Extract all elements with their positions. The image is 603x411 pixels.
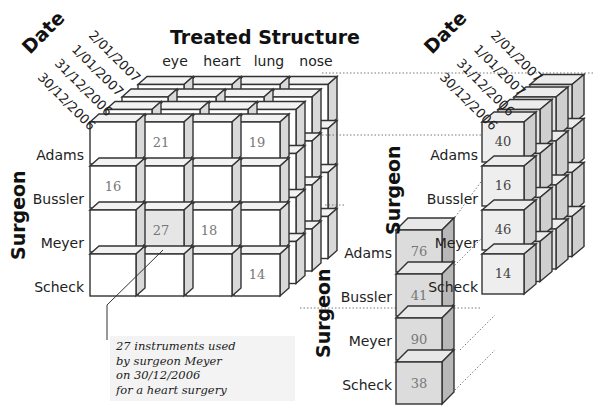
cube-cell: 16 xyxy=(90,158,145,208)
cell-value: 14 xyxy=(249,267,266,282)
surgeon-label: Adams xyxy=(430,147,478,163)
annotation-line-3: on 30/12/2006 xyxy=(116,368,236,383)
cell-value: 76 xyxy=(411,244,428,259)
annotation-line-4: for a heart surgery xyxy=(116,383,236,398)
cell-value: 90 xyxy=(411,332,428,347)
surgeon-label: Scheck xyxy=(428,279,479,295)
cell-value: 21 xyxy=(153,135,170,150)
right-surgeon-axis-label: Surgeon xyxy=(382,145,404,235)
cube-cell: 18 xyxy=(186,202,241,252)
olap-cube-diagram: .edge { stroke: #333; stroke-width: 1.4;… xyxy=(0,0,603,411)
right-cube-cell: 14 xyxy=(482,244,536,294)
cell-value: 14 xyxy=(495,266,512,281)
left-cube: 192116182714 xyxy=(90,77,337,297)
cube-cell: 19 xyxy=(234,114,289,164)
surgeon-label: Scheck xyxy=(342,377,393,393)
right-cube-cell: 16 xyxy=(482,156,536,206)
annotation-line-2: by surgeon Meyer xyxy=(116,354,236,369)
cell-value: 18 xyxy=(201,223,218,238)
cube-cell: 21 xyxy=(138,114,193,164)
rolled-surgeon-axis-label: Surgeon xyxy=(312,268,334,358)
surgeon-label: Meyer xyxy=(41,235,85,251)
structure-labels: eyeheartlungnose xyxy=(162,53,332,69)
left-date-axis-label: Date xyxy=(17,7,68,58)
right-date-axis-label: Date xyxy=(419,7,470,58)
cell-value: 16 xyxy=(495,178,512,193)
surgeon-label: Scheck xyxy=(34,279,85,295)
rolled-column-cell: 38 xyxy=(396,350,454,404)
cube-cell xyxy=(234,202,289,252)
cell-value: 27 xyxy=(153,223,170,238)
cube-cell xyxy=(234,158,289,208)
surgeon-label: Bussler xyxy=(341,289,393,305)
surgeon-label: Adams xyxy=(344,245,392,261)
cube-cell xyxy=(186,114,241,164)
cell-value: 16 xyxy=(105,179,122,194)
right-cube-cell: 46 xyxy=(482,200,536,250)
rolled-surgeon-labels: AdamsBusslerMeyerScheck xyxy=(341,245,393,393)
left-surgeon-labels: AdamsBusslerMeyerScheck xyxy=(33,147,85,295)
structure-label: heart xyxy=(203,53,241,69)
surgeon-label: Meyer xyxy=(349,333,393,349)
cell-value: 41 xyxy=(411,288,428,303)
cube-cell xyxy=(186,158,241,208)
cell-value: 40 xyxy=(495,134,512,149)
annotation-text: 27 instruments used by surgeon Meyer on … xyxy=(116,339,236,397)
surgeon-label: Bussler xyxy=(427,191,479,207)
cell-value: 38 xyxy=(411,376,428,391)
cell-value: 19 xyxy=(249,135,266,150)
cube-cell xyxy=(90,246,145,296)
annotation-line-1: 27 instruments used xyxy=(116,339,236,354)
surgeon-label: Adams xyxy=(36,147,84,163)
structure-label: nose xyxy=(299,53,332,69)
surgeon-label: Meyer xyxy=(435,235,479,251)
surgeon-label: Bussler xyxy=(33,191,85,207)
structure-label: lung xyxy=(254,53,285,69)
cube-cell xyxy=(138,246,193,296)
cube-cell xyxy=(138,158,193,208)
left-surgeon-axis-label: Surgeon xyxy=(7,170,29,260)
structure-label: eye xyxy=(162,53,188,69)
cell-value: 46 xyxy=(495,222,512,237)
cube-cell: 27 xyxy=(138,202,193,252)
cube-cell: 14 xyxy=(234,246,289,296)
cube-cell xyxy=(90,202,145,252)
left-title: Treated Structure xyxy=(170,26,360,48)
cube-cell xyxy=(186,246,241,296)
